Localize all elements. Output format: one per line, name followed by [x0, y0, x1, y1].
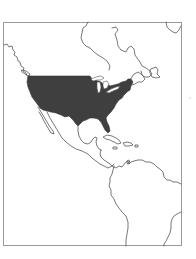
central-america-caribbean-coast [100, 150, 114, 166]
gulf-of-mexico-coast [78, 126, 101, 150]
puerto-rico [135, 145, 138, 147]
greenland-coast [166, 22, 181, 33]
newfoundland [150, 67, 160, 78]
south-america-north-coast [112, 160, 181, 184]
map-frame [4, 23, 182, 246]
south-america-west-coast [109, 166, 128, 246]
locator-map [0, 0, 196, 259]
hispaniola [123, 142, 133, 146]
pacific-northwest-coastline [4, 44, 27, 76]
scan-speck [189, 97, 191, 99]
cuba [103, 135, 121, 144]
jamaica [113, 147, 117, 149]
hudson-bay-coastline [81, 22, 110, 70]
brazil-east-coast [164, 212, 181, 246]
united-states-highlight [27, 76, 133, 133]
lake-superior [91, 76, 104, 81]
lake-michigan [97, 82, 101, 93]
labrador-coastline [112, 27, 152, 77]
map-figure [0, 0, 196, 259]
